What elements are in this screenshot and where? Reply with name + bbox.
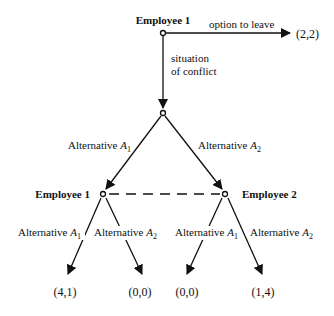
- middle-node: [161, 111, 166, 116]
- middle-left-edge-arrow: [106, 116, 161, 189]
- middle-left-edge-label: Alternative A1: [68, 139, 131, 154]
- middle-right-edge-label: Alternative A2: [198, 139, 261, 154]
- conflict-label-line2: of conflict: [171, 65, 217, 77]
- leave-payoff: (2,2): [296, 27, 319, 41]
- payoff-right-a1: (0,0): [176, 285, 199, 299]
- right-decision-node: [223, 192, 228, 197]
- left-decision-node: [101, 192, 106, 197]
- leave-edge-label: option to leave: [209, 18, 274, 30]
- payoff-right-a2: (1,4): [252, 285, 275, 299]
- game-tree-diagram: Employee 1 option to leave (2,2) situati…: [0, 0, 334, 316]
- middle-right-edge-arrow: [165, 116, 222, 189]
- payoff-left-a1: (4,1): [54, 285, 77, 299]
- root-node: [161, 31, 166, 36]
- conflict-label-line1: situation: [171, 52, 209, 64]
- right-player-label: Employee 2: [242, 188, 297, 200]
- left-player-label: Employee 1: [35, 188, 90, 200]
- payoff-left-a2: (0,0): [129, 285, 152, 299]
- root-player-label: Employee 1: [136, 14, 191, 26]
